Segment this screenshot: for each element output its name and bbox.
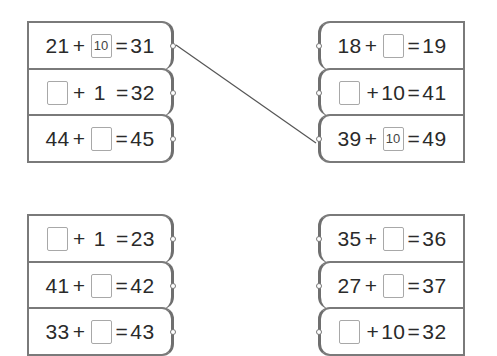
connector-dot[interactable] (316, 283, 322, 289)
addend-a: 35 (337, 227, 361, 251)
plus-sign: + (73, 34, 86, 58)
addend-a: 44 (45, 127, 69, 151)
answer-box[interactable]: 10 (91, 34, 112, 58)
result: 23 (131, 227, 155, 251)
result: 31 (130, 34, 154, 58)
addend-a: 18 (337, 34, 361, 58)
answer-box[interactable] (47, 227, 68, 251)
equals-sign: = (116, 34, 129, 58)
plus-sign: + (366, 81, 379, 105)
connector-dot[interactable] (170, 136, 176, 142)
equals-sign: = (408, 320, 421, 344)
plus-sign: + (73, 127, 86, 151)
plus-sign: + (365, 34, 378, 58)
connector-dot[interactable] (170, 329, 176, 335)
connector-dot[interactable] (170, 43, 176, 49)
addend-a: 33 (45, 320, 69, 344)
top-left-equation-card: 21 + 10 = 31 + 1 = 32 44 + = 45 (27, 21, 174, 161)
result: 36 (422, 227, 446, 251)
equals-sign: = (116, 227, 129, 251)
equation-row: + 10 = 32 (318, 307, 465, 356)
plus-sign: + (365, 227, 378, 251)
top-right-equation-card: 18 + = 19 + 10 = 41 39 + 10 = 49 (318, 21, 465, 161)
addend-b: 1 (94, 81, 106, 105)
result: 32 (422, 320, 446, 344)
equation-row: 44 + = 45 (27, 114, 174, 163)
equation-row: 39 + 10 = 49 (318, 114, 465, 163)
connector-dot[interactable] (170, 283, 176, 289)
equals-sign: = (408, 227, 421, 251)
addend-a: 41 (45, 274, 69, 298)
equals-sign: = (408, 127, 421, 151)
addend-a: 21 (45, 34, 69, 58)
answer-box[interactable] (91, 320, 112, 344)
plus-sign: + (366, 320, 379, 344)
equals-sign: = (408, 274, 421, 298)
equation-row: 33 + = 43 (27, 307, 174, 356)
equation-row: + 10 = 41 (318, 68, 465, 117)
equals-sign: = (116, 274, 129, 298)
answer-box[interactable]: 10 (383, 127, 404, 151)
result: 32 (131, 81, 155, 105)
equation-row: 41 + = 42 (27, 261, 174, 310)
equals-sign: = (116, 127, 129, 151)
plus-sign: + (73, 320, 86, 344)
connector-dot[interactable] (316, 236, 322, 242)
equation-row: + 1 = 32 (27, 68, 174, 117)
result: 42 (130, 274, 154, 298)
addend-b: 1 (94, 227, 106, 251)
equals-sign: = (408, 34, 421, 58)
answer-box[interactable] (91, 274, 112, 298)
plus-sign: + (73, 274, 86, 298)
plus-sign: + (73, 81, 86, 105)
answer-box[interactable] (91, 127, 112, 151)
answer-box[interactable] (47, 81, 68, 105)
result: 19 (422, 34, 446, 58)
answer-box[interactable] (339, 81, 360, 105)
result: 45 (130, 127, 154, 151)
equals-sign: = (408, 81, 421, 105)
result: 43 (130, 320, 154, 344)
result: 49 (422, 127, 446, 151)
connector-dot[interactable] (316, 329, 322, 335)
addend-a: 39 (337, 127, 361, 151)
bottom-right-equation-card: 35 + = 36 27 + = 37 + 10 = 32 (318, 214, 465, 354)
equals-sign: = (116, 320, 129, 344)
connector-dot[interactable] (316, 43, 322, 49)
answer-box[interactable] (383, 34, 404, 58)
addend-b: 10 (381, 81, 405, 105)
plus-sign: + (73, 227, 86, 251)
connector-dot[interactable] (316, 136, 322, 142)
equals-sign: = (116, 81, 129, 105)
answer-box[interactable] (339, 320, 360, 344)
equation-row: 35 + = 36 (318, 214, 465, 263)
plus-sign: + (365, 274, 378, 298)
answer-box[interactable] (383, 227, 404, 251)
connector-dot[interactable] (316, 90, 322, 96)
equation-row: + 1 = 23 (27, 214, 174, 263)
addend-a: 27 (337, 274, 361, 298)
plus-sign: + (365, 127, 378, 151)
connector-dot[interactable] (170, 236, 176, 242)
addend-b: 10 (381, 320, 405, 344)
connector-dot[interactable] (170, 90, 176, 96)
equation-row: 27 + = 37 (318, 261, 465, 310)
result: 41 (422, 81, 446, 105)
result: 37 (422, 274, 446, 298)
bottom-left-equation-card: + 1 = 23 41 + = 42 33 + = 43 (27, 214, 174, 354)
answer-box[interactable] (383, 274, 404, 298)
equation-row: 21 + 10 = 31 (27, 21, 174, 70)
equation-row: 18 + = 19 (318, 21, 465, 70)
